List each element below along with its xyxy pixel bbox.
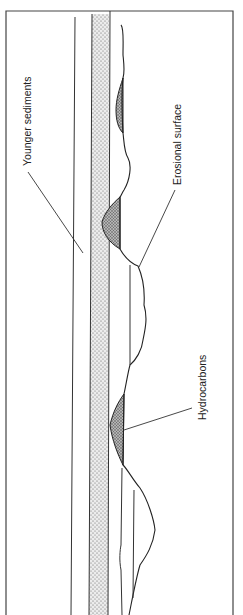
- unconformity-line-2: [120, 468, 122, 615]
- leader-hydrocarbons: [124, 408, 192, 430]
- unconformity-line-3: [133, 490, 134, 598]
- younger-sediments-boundary: [71, 17, 75, 615]
- erosional-surface: [120, 25, 155, 615]
- sandstone-seal-band: [89, 11, 110, 615]
- label-hydrocarbons: Hydrocarbons: [197, 355, 208, 420]
- label-younger-sediments: Younger sediments: [22, 76, 33, 166]
- leader-erosional-surface: [139, 190, 175, 267]
- cross-section-diagram: [0, 0, 243, 615]
- label-erosional-surface: Erosional surface: [172, 104, 183, 185]
- leader-younger-sediments: [28, 172, 83, 253]
- hydrocarbon-trap-3: [110, 394, 124, 465]
